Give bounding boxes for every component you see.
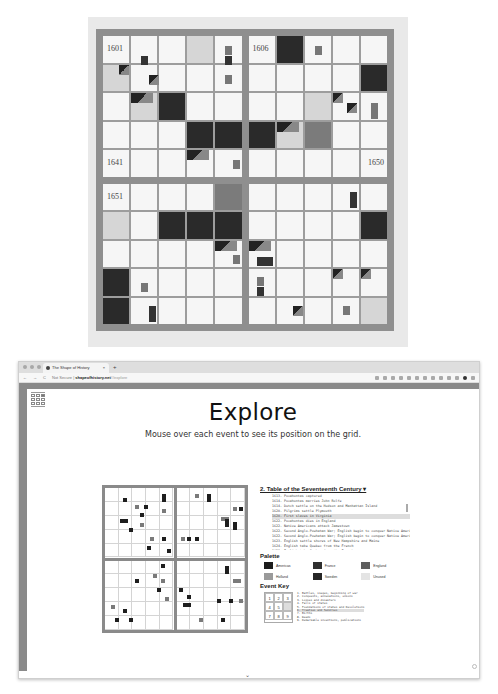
settings-gear-icon[interactable] [471,376,475,380]
event-marker[interactable] [239,599,243,603]
event-marker[interactable] [195,494,199,498]
grid-quadrant-2[interactable] [177,488,246,558]
event-marker[interactable] [233,522,237,530]
grid-quadrant-1[interactable] [105,488,174,558]
event-marker[interactable] [135,505,139,509]
event-marker[interactable] [140,523,144,527]
key-cell: 9 [283,611,292,620]
event-marker[interactable] [123,498,127,502]
corner-indicator-icon [472,664,477,669]
key-cell: 3 [283,593,292,602]
event-marker[interactable] [199,618,203,622]
close-tab-icon[interactable]: × [103,363,105,373]
url-field[interactable]: Not Secure | shapeofhistory.net/#explore [52,373,127,383]
key-cell: 8 [274,611,283,620]
forward-button[interactable]: → [33,373,37,383]
event-marker[interactable] [233,579,241,583]
event-marker[interactable] [162,537,166,541]
scroll-down-chevron-icon[interactable]: ⌄ [245,671,250,678]
explore-page: Explore Mouse over each event to see its… [27,389,479,671]
photo-grid-frame: 1601 1641 [96,29,394,331]
event-marker[interactable] [135,579,139,583]
page-viewport: Explore Mouse over each event to see its… [19,383,479,671]
event-marker[interactable] [225,519,229,527]
event-marker[interactable] [153,574,157,578]
event-marker[interactable] [120,519,128,523]
year-label: 1641 [107,158,123,167]
extension-toolbar [375,376,475,380]
window-controls[interactable] [23,365,41,369]
browser-tab[interactable]: The Shape of History × [43,363,109,373]
year-label: 1650 [368,158,384,167]
event-marker[interactable] [165,597,169,601]
profile-avatar-icon[interactable] [463,376,467,380]
event-marker[interactable] [167,549,171,553]
extension-icon[interactable] [391,376,395,380]
event-key-heading: Event Key [260,583,410,589]
extension-icon[interactable] [399,376,403,380]
page-title: Explore [27,399,479,425]
event-marker[interactable] [162,494,166,502]
swatch-england [361,562,370,569]
event-list[interactable]: 1613. Pocahontas captured 1614. Pocahont… [260,494,410,550]
grid-quadrant-3[interactable] [105,561,174,631]
event-marker[interactable] [233,507,237,511]
event-marker[interactable] [123,609,127,613]
event-marker[interactable] [147,546,151,550]
palette-item: Unused [361,573,410,580]
extension-icon[interactable] [415,376,419,380]
event-marker[interactable] [161,579,165,583]
event-marker[interactable] [111,605,115,609]
extension-icon[interactable] [455,376,459,380]
event-list-item[interactable]: 1629. English take Quebec from the Frenc… [272,549,410,550]
event-marker[interactable] [129,528,133,532]
event-marker[interactable] [179,588,183,592]
table-selector-dropdown[interactable]: 2. Table of the Seventeenth Century ▾ [260,485,410,492]
security-indicator[interactable]: Not Secure [52,375,72,380]
info-panel: 2. Table of the Seventeenth Century ▾ 16… [260,485,410,623]
scanned-chart-photo: 1601 1641 [88,17,408,347]
event-marker[interactable] [144,505,148,509]
event-marker[interactable] [181,537,185,541]
new-tab-button[interactable]: + [113,362,117,373]
history-grid[interactable] [102,485,248,633]
event-marker[interactable] [207,494,211,502]
tab-title: The Shape of History [52,365,90,370]
event-marker[interactable] [183,603,191,607]
photo-quadrant-2: 1606 [249,36,388,177]
extension-icon[interactable] [423,376,427,380]
event-marker[interactable] [129,618,133,622]
event-marker[interactable] [187,595,191,599]
event-marker[interactable] [162,509,166,513]
swatch-holland [264,573,273,580]
back-button[interactable]: ← [23,373,27,383]
photo-quadrant-4 [249,184,388,325]
event-marker[interactable] [150,537,154,541]
extension-icon[interactable] [383,376,387,380]
event-marker[interactable] [161,564,165,568]
extension-icon[interactable] [407,376,411,380]
event-marker[interactable] [157,588,161,592]
event-marker[interactable] [195,537,199,541]
event-marker[interactable] [217,599,221,603]
extension-icon[interactable] [431,376,435,380]
reload-button[interactable]: C [43,373,46,383]
event-marker[interactable] [229,599,233,603]
key-cell: 7 [265,611,274,620]
palette-heading: Palette [260,553,410,559]
event-marker[interactable] [115,618,119,622]
year-label: 1606 [253,44,269,53]
event-marker[interactable] [239,507,243,511]
event-key: 1 2 3 4 5 7 8 9 1. Battles, sieges, begi… [260,592,410,623]
bookmark-star-icon[interactable] [375,376,379,380]
extension-icon[interactable] [439,376,443,380]
event-marker[interactable] [225,566,229,574]
extension-icon[interactable] [447,376,451,380]
grid-quadrant-4[interactable] [177,561,246,631]
event-marker[interactable] [140,513,144,517]
event-marker[interactable] [187,537,191,541]
list-scrollbar[interactable] [406,504,408,512]
key-cell-highlighted [283,602,292,611]
event-marker[interactable] [221,618,225,622]
swatch-unused [361,573,370,580]
